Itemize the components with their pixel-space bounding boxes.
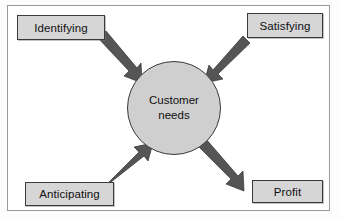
node-identifying-label: Identifying bbox=[34, 22, 88, 34]
node-profit-label: Profit bbox=[274, 186, 301, 198]
node-customer-needs[interactable]: Customer needs bbox=[127, 61, 221, 155]
node-profit[interactable]: Profit bbox=[252, 180, 323, 203]
node-anticipating[interactable]: Anticipating bbox=[25, 182, 114, 206]
arrow-center-to-profit bbox=[198, 139, 244, 191]
node-satisfying-label: Satisfying bbox=[260, 20, 311, 32]
arrow-satisfying-to-center bbox=[204, 36, 250, 83]
node-satisfying[interactable]: Satisfying bbox=[247, 13, 323, 38]
node-customer-needs-label-line2: needs bbox=[158, 108, 189, 123]
node-anticipating-label: Anticipating bbox=[39, 188, 100, 200]
node-customer-needs-label-line1: Customer bbox=[149, 93, 199, 108]
diagram-canvas: Identifying Satisfying Anticipating Prof… bbox=[0, 0, 342, 221]
node-identifying[interactable]: Identifying bbox=[17, 15, 105, 40]
